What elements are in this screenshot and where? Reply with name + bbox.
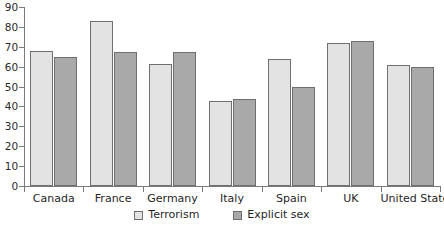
bar-chart: 0102030405060708090 CanadaFranceGermanyI… bbox=[0, 0, 444, 230]
x-axis-label-germany: Germany bbox=[143, 192, 202, 205]
chart-legend: TerrorismExplicit sex bbox=[0, 209, 444, 221]
legend-swatch-icon bbox=[134, 211, 143, 220]
y-axis-tick-label: 10 bbox=[0, 161, 18, 172]
y-axis-tick-label: 30 bbox=[0, 121, 18, 132]
x-axis-label-canada: Canada bbox=[24, 192, 83, 205]
bar-germany-explicit-sex bbox=[173, 52, 196, 186]
bar-united-states-explicit-sex bbox=[411, 67, 434, 186]
y-axis-tick-label: 60 bbox=[0, 62, 18, 73]
bar-united-states-terrorism bbox=[387, 65, 410, 186]
bar-spain-terrorism bbox=[268, 59, 291, 186]
bar-uk-explicit-sex bbox=[351, 41, 374, 186]
x-axis-label-uk: UK bbox=[321, 192, 380, 205]
x-axis-label-france: France bbox=[83, 192, 142, 205]
y-axis-tick-label: 70 bbox=[0, 42, 18, 53]
x-axis-label-italy: Italy bbox=[202, 192, 261, 205]
bar-canada-explicit-sex bbox=[54, 57, 77, 186]
y-axis-tick-label: 20 bbox=[0, 141, 18, 152]
x-axis-label-spain: Spain bbox=[262, 192, 321, 205]
legend-item-terrorism[interactable]: Terrorism bbox=[134, 209, 199, 221]
y-axis-tick-label: 40 bbox=[0, 101, 18, 112]
legend-label: Terrorism bbox=[148, 209, 199, 221]
legend-swatch-icon bbox=[233, 211, 242, 220]
legend-item-explicit-sex[interactable]: Explicit sex bbox=[233, 209, 309, 221]
x-axis-line bbox=[24, 186, 440, 187]
bar-italy-terrorism bbox=[209, 101, 232, 186]
plot-area bbox=[24, 7, 440, 186]
y-axis-tick-label: 80 bbox=[0, 22, 18, 33]
bar-uk-terrorism bbox=[327, 43, 350, 186]
y-axis-tick-label: 50 bbox=[0, 82, 18, 93]
bar-germany-terrorism bbox=[149, 64, 172, 186]
y-axis-tick-label: 0 bbox=[0, 181, 18, 192]
bar-france-explicit-sex bbox=[114, 52, 137, 186]
bar-canada-terrorism bbox=[30, 51, 53, 186]
bar-spain-explicit-sex bbox=[292, 87, 315, 186]
bar-italy-explicit-sex bbox=[233, 99, 256, 186]
legend-label: Explicit sex bbox=[247, 209, 309, 221]
y-axis-tick-label: 90 bbox=[0, 2, 18, 13]
x-axis-label-united-states: United States bbox=[381, 192, 440, 205]
bar-france-terrorism bbox=[90, 21, 113, 186]
